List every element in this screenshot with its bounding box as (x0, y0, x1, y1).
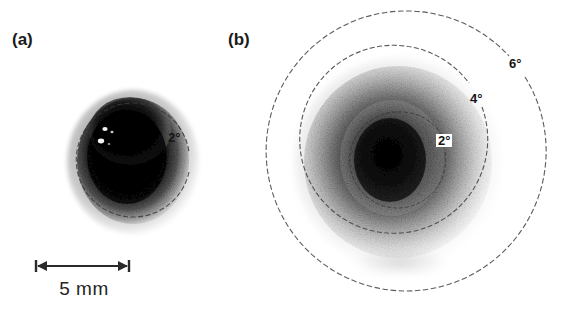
panel-a-scalebar-arrowhead-left (37, 261, 47, 271)
panel-b-label: (b) (228, 30, 250, 50)
panel-a-ring-2deg-label: 2° (168, 130, 180, 145)
panel-a-label: (a) (12, 30, 33, 50)
panel-b-ring-4deg-label: 4° (470, 91, 482, 106)
panel-a-scalebar (36, 260, 129, 272)
panel-b-ring-2deg-label: 2° (436, 134, 452, 147)
panel-a-graphics (36, 90, 199, 272)
panel-a-scalebar-label: 5 mm (38, 278, 130, 300)
panel-b-blob-peak (354, 118, 426, 202)
panel-b-graphics (266, 11, 546, 291)
panel-b-ring-6deg-label: 6° (509, 56, 521, 71)
figure-canvas: (a) (b) 2° 2° 4° 6° 5 mm (0, 0, 563, 333)
panel-a-scalebar-arrowhead-right (118, 261, 128, 271)
panel-a-blob-core (87, 110, 167, 204)
